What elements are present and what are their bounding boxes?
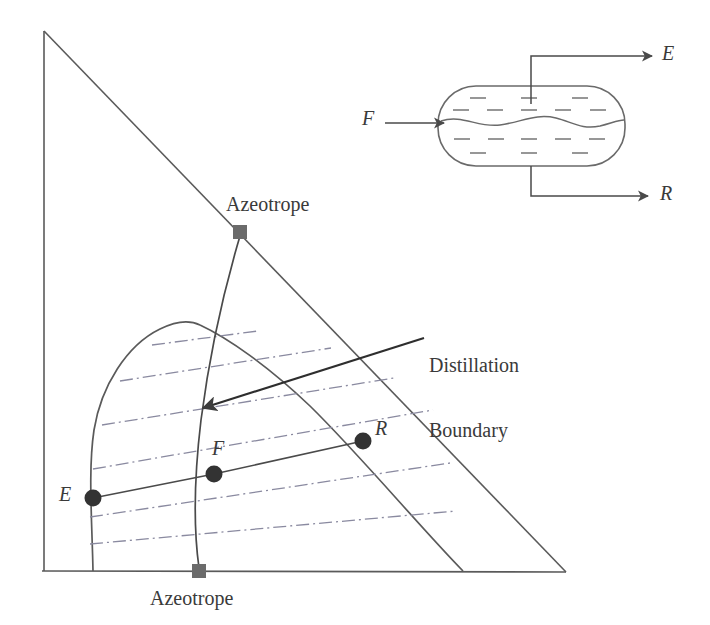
label-stream-F: F [362,108,374,130]
label-distillation-boundary: Distillation Boundary [429,312,519,485]
label-stream-E: E [662,43,674,65]
triangle-hypotenuse-edge [44,31,566,572]
point-marker-R[interactable] [355,433,372,450]
label-distillation-boundary-line2: Boundary [429,420,519,442]
lower-phase-hatching [454,139,605,153]
decanter-flowsheet [385,56,652,196]
label-point-F: F [212,438,224,460]
label-stream-R: R [660,183,672,205]
tie-lines-group [90,331,456,544]
stream-line-E [531,56,652,104]
distillation-boundary-curve [195,236,240,568]
tie-line [90,463,450,517]
triangle-base-edge [42,571,566,572]
balance-line-group [85,433,372,507]
binodal-curve [91,322,463,571]
figure-canvas: Azeotrope Azeotrope Distillation Boundar… [0,0,710,625]
label-point-R: R [375,418,387,440]
azeotrope-marker-bottom[interactable] [192,564,206,578]
balance-line [93,441,363,498]
upper-phase-hatching [453,98,606,110]
tie-line [102,378,394,425]
distillation-boundary-annotation-arrow [203,338,424,408]
annotation-arrow-line [203,338,424,408]
tie-line [120,348,331,381]
azeotrope-markers [192,225,247,578]
stream-line-R [531,166,648,196]
point-marker-E[interactable] [85,490,102,507]
label-distillation-boundary-line1: Distillation [429,355,519,377]
ternary-diagram-svg [0,0,710,625]
point-marker-F[interactable] [206,466,223,483]
label-azeotrope-top: Azeotrope [226,194,309,216]
label-point-E: E [59,484,71,506]
composition-triangle [42,31,566,572]
label-azeotrope-bottom: Azeotrope [150,588,233,610]
azeotrope-marker-top[interactable] [233,225,247,239]
boundary-path [195,236,240,568]
tie-line [90,511,456,544]
immiscibility-dome [91,322,463,571]
tie-line [152,331,258,345]
phase-interface-line [441,117,624,128]
